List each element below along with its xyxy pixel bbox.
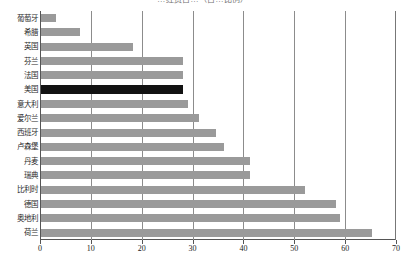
x-tick-label-10: 10 [87, 244, 95, 254]
bar-row [41, 211, 397, 225]
x-tick-label-30: 30 [189, 244, 197, 254]
x-tick-label-0: 0 [38, 244, 42, 254]
bar-爱尔兰 [41, 114, 199, 122]
category-label-法国: 法国 [0, 71, 38, 80]
bar-row [41, 11, 397, 25]
bar-奥地利 [41, 214, 340, 222]
category-label-荷兰: 荷兰 [0, 228, 38, 237]
bar-芬兰 [41, 57, 183, 65]
category-label-希腊: 希腊 [0, 28, 38, 37]
bar-比利时 [41, 186, 305, 194]
category-label-意大利: 意大利 [0, 100, 38, 109]
bar-德国 [41, 200, 336, 208]
bar-丹麦 [41, 157, 250, 165]
bar-法国 [41, 71, 183, 79]
bar-row [41, 111, 397, 125]
bar-row [41, 197, 397, 211]
category-label-瑞典: 瑞典 [0, 171, 38, 180]
bar-瑞典 [41, 171, 250, 179]
bar-row [41, 226, 397, 240]
x-tick-label-50: 50 [290, 244, 298, 254]
bar-row [41, 168, 397, 182]
category-label-芬兰: 芬兰 [0, 57, 38, 66]
category-label-比利时: 比利时 [0, 185, 38, 194]
category-label-西班牙: 西班牙 [0, 128, 38, 137]
plot-area [40, 11, 396, 240]
category-label-德国: 德国 [0, 200, 38, 209]
category-label-美国: 美国 [0, 85, 38, 94]
bar-美国 [41, 85, 183, 94]
bar-西班牙 [41, 129, 216, 137]
bar-chart: …经费占…（占…比例） 葡萄牙希腊英国芬兰法国美国意大利爱尔兰西班牙卢森堡丹麦瑞… [0, 0, 406, 264]
category-label-奥地利: 奥地利 [0, 214, 38, 223]
x-tick-label-20: 20 [138, 244, 146, 254]
bar-row [41, 140, 397, 154]
bar-希腊 [41, 28, 80, 36]
category-label-丹麦: 丹麦 [0, 157, 38, 166]
chart-title: …经费占…（占…比例） [0, 0, 406, 5]
bar-row [41, 126, 397, 140]
bar-葡萄牙 [41, 14, 56, 22]
x-tick-label-40: 40 [239, 244, 247, 254]
category-label-卢森堡: 卢森堡 [0, 142, 38, 151]
bar-row [41, 83, 397, 97]
bar-row [41, 154, 397, 168]
bar-卢森堡 [41, 143, 224, 151]
bar-row [41, 97, 397, 111]
bar-row [41, 25, 397, 39]
bar-row [41, 183, 397, 197]
category-label-爱尔兰: 爱尔兰 [0, 114, 38, 123]
bar-意大利 [41, 100, 188, 108]
bar-row [41, 40, 397, 54]
category-label-英国: 英国 [0, 42, 38, 51]
bar-row [41, 54, 397, 68]
bar-荷兰 [41, 229, 372, 237]
bar-英国 [41, 43, 133, 51]
x-tick-label-70: 70 [392, 244, 400, 254]
x-tick-label-60: 60 [341, 244, 349, 254]
bar-row [41, 68, 397, 82]
category-label-葡萄牙: 葡萄牙 [0, 14, 38, 23]
